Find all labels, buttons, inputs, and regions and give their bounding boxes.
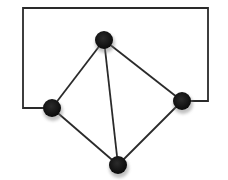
edge-top-bottom: [104, 40, 118, 165]
node-top: [95, 31, 115, 53]
edges: [52, 40, 182, 165]
edge-top-left: [52, 40, 104, 108]
edge-right-bottom: [118, 101, 182, 165]
graph-diagram: [0, 0, 228, 180]
edge-top-right: [104, 40, 182, 101]
edge-left-bottom: [52, 108, 118, 165]
nodes: [43, 31, 193, 178]
node-left: [43, 99, 63, 121]
node-right: [173, 92, 193, 114]
node-bottom: [109, 156, 129, 178]
